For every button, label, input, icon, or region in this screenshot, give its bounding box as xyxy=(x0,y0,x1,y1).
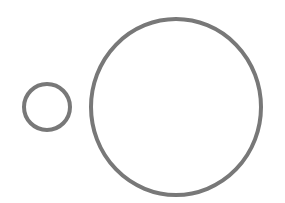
small-circle xyxy=(24,84,70,130)
diagram-canvas xyxy=(0,0,285,203)
large-circle xyxy=(91,19,261,195)
